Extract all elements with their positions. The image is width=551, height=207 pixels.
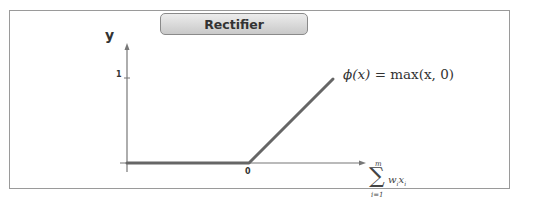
x-tick-label: 0 bbox=[245, 167, 251, 176]
relu-line bbox=[127, 79, 333, 163]
sum-term: wixi bbox=[388, 174, 406, 187]
y-axis-label: y bbox=[105, 27, 114, 43]
term-x-sub: i bbox=[404, 180, 406, 187]
sum-lower-limit: i=1 bbox=[371, 191, 384, 199]
y-axis-arrow-icon bbox=[125, 43, 130, 50]
formula-rhs: max(x, 0) bbox=[390, 66, 454, 82]
term-w: w bbox=[388, 174, 397, 185]
relu-plot bbox=[0, 0, 551, 207]
x-axis-arrow-icon bbox=[359, 161, 366, 166]
formula-lhs: ϕ(x) bbox=[343, 66, 370, 82]
formula-eq: = bbox=[370, 66, 390, 82]
sum-symbol: ∑ bbox=[369, 165, 385, 187]
relu-formula: ϕ(x) = max(x, 0) bbox=[343, 66, 454, 82]
y-tick-label: 1 bbox=[116, 70, 122, 79]
x-axis-label: m ∑ i=1 wixi bbox=[368, 160, 418, 206]
